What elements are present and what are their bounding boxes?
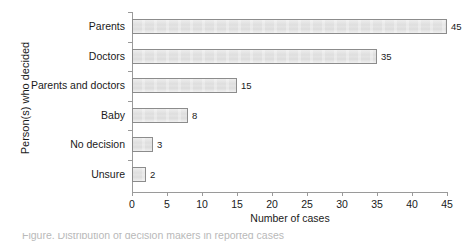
bar-row: Parents45 — [132, 12, 447, 42]
y-axis-tick — [128, 160, 132, 161]
x-axis-tick-label: 10 — [182, 198, 222, 210]
bar — [132, 49, 377, 64]
bar-texture — [133, 109, 187, 122]
category-label: Parents and doctors — [31, 78, 125, 93]
category-label: Parents — [89, 19, 125, 34]
y-axis-tick — [128, 101, 132, 102]
bar — [132, 108, 188, 123]
bar-texture — [133, 168, 145, 181]
bar — [132, 167, 146, 182]
bar-value-label: 3 — [157, 137, 162, 152]
category-label: Unsure — [91, 167, 125, 182]
bar-value-label: 45 — [451, 19, 462, 34]
category-label: Doctors — [89, 49, 125, 64]
x-axis-tick — [307, 192, 308, 196]
y-axis-tick — [128, 130, 132, 131]
clipped-caption-text: Figure. Distribution of decision makers … — [0, 233, 475, 241]
bar — [132, 137, 153, 152]
bar-texture — [133, 50, 376, 63]
bar-value-label: 2 — [150, 167, 155, 182]
x-axis-title: Number of cases — [132, 212, 448, 224]
clipped-caption: Figure. Distribution of decision makers … — [0, 233, 475, 241]
bar-row: Unsure2 — [132, 160, 447, 190]
category-label: No decision — [70, 137, 125, 152]
x-axis-tick-label: 15 — [217, 198, 257, 210]
x-axis-tick-label: 0 — [112, 198, 152, 210]
bar — [132, 19, 447, 34]
x-axis-tick — [167, 192, 168, 196]
x-axis-tick — [202, 192, 203, 196]
bar-value-label: 15 — [241, 78, 252, 93]
bar-value-label: 35 — [381, 49, 392, 64]
bar-texture — [133, 138, 152, 151]
x-axis-tick-label: 20 — [252, 198, 292, 210]
bar-texture — [133, 20, 446, 33]
y-axis-title: Person(s) who decided — [18, 0, 32, 198]
x-axis-tick — [237, 192, 238, 196]
x-axis-tick — [342, 192, 343, 196]
y-axis-tick — [128, 12, 132, 13]
x-axis-tick-label: 40 — [392, 198, 432, 210]
category-label: Baby — [101, 108, 125, 123]
x-axis-tick — [132, 192, 133, 196]
bar-row: Baby8 — [132, 101, 447, 131]
x-axis-tick — [272, 192, 273, 196]
y-axis-tick — [128, 71, 132, 72]
bar-row: No decision3 — [132, 130, 447, 160]
y-axis-tick — [128, 42, 132, 43]
x-axis-tick-label: 35 — [357, 198, 397, 210]
plot-area: Parents45Doctors35Parents and doctors15B… — [132, 12, 447, 192]
x-axis-tick-label: 45 — [427, 198, 467, 210]
bar-texture — [133, 79, 236, 92]
bar-chart: Person(s) who decided Parents45Doctors35… — [0, 0, 475, 241]
x-axis-line — [132, 192, 448, 193]
bar-row: Doctors35 — [132, 42, 447, 72]
x-axis-tick — [377, 192, 378, 196]
bar-row: Parents and doctors15 — [132, 71, 447, 101]
bar — [132, 78, 237, 93]
x-axis-tick-label: 5 — [147, 198, 187, 210]
bar-value-label: 8 — [192, 108, 197, 123]
x-axis-tick — [447, 192, 448, 196]
x-axis-tick-label: 30 — [322, 198, 362, 210]
x-axis-tick — [412, 192, 413, 196]
x-axis-tick-label: 25 — [287, 198, 327, 210]
